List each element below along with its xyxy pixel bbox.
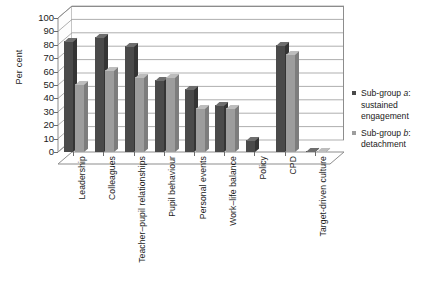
- bar-sub-group-b: [317, 151, 326, 152]
- x-axis-label: Pupil behaviour: [167, 156, 177, 217]
- x-axis-label: Leadership: [77, 156, 87, 200]
- x-tick-mark: [73, 152, 74, 156]
- x-axis-label: Target-driven culture: [318, 156, 328, 236]
- bar-sub-group-a: [215, 105, 224, 152]
- legend-item: Sub-group b:detachment: [352, 128, 428, 151]
- x-tick-mark: [194, 152, 195, 156]
- bar-sub-group-b: [226, 108, 235, 152]
- legend-swatch-icon: [352, 91, 356, 95]
- x-axis-label: Policy: [258, 156, 268, 180]
- legend-swatch-icon: [352, 131, 356, 135]
- bar-sub-group-b: [196, 108, 205, 152]
- bar-sub-group-a: [125, 46, 134, 152]
- y-tick-label: 30: [43, 107, 54, 117]
- bar-sub-group-a: [185, 89, 194, 152]
- x-tick-mark: [285, 152, 286, 156]
- y-tick-label: 20: [43, 120, 54, 130]
- bar-sub-group-b: [135, 77, 144, 152]
- y-tick-label: 80: [43, 40, 54, 50]
- x-axis-label: Personal events: [198, 156, 208, 219]
- y-tick-label: 90: [43, 27, 54, 37]
- legend-label: Sub-group b:detachment: [361, 128, 411, 150]
- x-tick-mark: [134, 152, 135, 156]
- bar-sub-group-b: [75, 84, 84, 152]
- bar-series-container: [58, 18, 330, 152]
- x-tick-mark: [103, 152, 104, 156]
- y-tick-label: 60: [43, 67, 54, 77]
- y-tick-label: 10: [43, 134, 54, 144]
- bar-sub-group-b: [286, 54, 295, 152]
- y-tick-label: 50: [43, 80, 54, 90]
- x-axis-label: CPD: [288, 156, 298, 174]
- bar-chart: Per cent 0102030405060708090100 Leadersh…: [0, 0, 428, 297]
- bar-sub-group-a: [155, 80, 164, 152]
- x-tick-mark: [224, 152, 225, 156]
- x-tick-mark: [164, 152, 165, 156]
- y-tick-label: 70: [43, 53, 54, 63]
- x-tick-mark: [254, 152, 255, 156]
- bar-sub-group-a: [64, 41, 73, 152]
- x-axis-labels: LeadershipColleaguesTeacher–pupil relati…: [58, 156, 348, 291]
- bar-sub-group-b: [105, 70, 114, 152]
- x-tick-mark: [315, 152, 316, 156]
- x-axis-label: Colleagues: [107, 156, 117, 200]
- bar-sub-group-a: [95, 37, 104, 152]
- y-tick-label: 40: [43, 94, 54, 104]
- bar-sub-group-a: [276, 45, 285, 152]
- chart-legend: Sub-group a:sustainedengagementSub-group…: [352, 88, 428, 156]
- y-axis-title: Per cent: [14, 32, 24, 102]
- x-axis-label: Work–life balance: [228, 156, 238, 226]
- x-axis-label: Teacher–pupil relationships: [137, 156, 147, 263]
- bar-sub-group-a: [306, 151, 315, 152]
- bar-sub-group-a: [246, 140, 255, 152]
- legend-label: Sub-group a:sustainedengagement: [361, 88, 411, 121]
- plot-area: 0102030405060708090100: [58, 18, 330, 152]
- y-tick-label: 100: [38, 13, 54, 23]
- legend-item: Sub-group a:sustainedengagement: [352, 88, 428, 123]
- bar-sub-group-b: [166, 77, 175, 152]
